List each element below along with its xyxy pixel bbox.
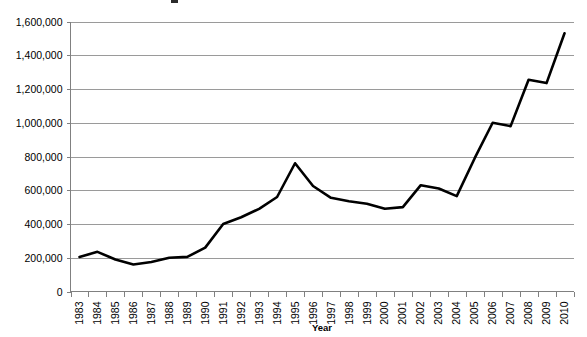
x-tick-label: 2007 <box>504 301 516 325</box>
x-axis-title: Year <box>312 322 332 333</box>
x-tick-label: 1987 <box>145 301 157 325</box>
x-tick-label: 2005 <box>468 301 480 325</box>
chart-canvas: 1,600,0001,400,0001,200,0001,000,000800,… <box>0 0 587 337</box>
x-tick-label: 1986 <box>127 301 139 325</box>
y-tick-label: 0 <box>57 286 63 298</box>
x-tick-label: 1999 <box>361 301 373 325</box>
x-tick-label: 1993 <box>253 301 265 325</box>
x-tick-label: 2004 <box>450 301 462 325</box>
x-tick-label: 1988 <box>163 301 175 325</box>
x-tick-label: 2006 <box>486 301 498 325</box>
x-tick-label: 1985 <box>109 301 121 325</box>
gridlines <box>71 23 574 259</box>
y-tick-label: 1,600,000 <box>16 16 63 28</box>
y-tick-label: 400,000 <box>25 218 63 230</box>
x-tick-label: 1994 <box>271 301 283 325</box>
x-tick-label: 2010 <box>558 301 570 325</box>
x-tick-label: 2002 <box>414 301 426 325</box>
x-tick-label: 2003 <box>432 301 444 325</box>
y-tick-label: 600,000 <box>25 184 63 196</box>
x-tick-label: 2009 <box>540 301 552 325</box>
y-tick-label: 800,000 <box>25 151 63 163</box>
x-tick-marks <box>72 292 575 297</box>
y-tick-label: 1,000,000 <box>16 117 63 129</box>
y-tick-label: 1,200,000 <box>16 83 63 95</box>
x-tick-label: 1990 <box>199 301 211 325</box>
x-tick-label: 2001 <box>396 301 408 325</box>
data-series-line <box>79 33 564 264</box>
x-tick-label: 1991 <box>217 301 229 325</box>
x-tick-label: 1998 <box>343 301 355 325</box>
y-tick-label: 1,400,000 <box>16 49 63 61</box>
x-tick-label: 1992 <box>235 301 247 325</box>
x-tick-label: 2008 <box>522 301 534 325</box>
x-tick-label: 1995 <box>289 301 301 325</box>
x-tick-label: 1989 <box>181 301 193 325</box>
x-tick-label: 1983 <box>73 301 85 325</box>
x-tick-label: 1984 <box>91 301 103 325</box>
y-axis-tick-labels: 1,600,0001,400,0001,200,0001,000,000800,… <box>16 16 63 298</box>
x-tick-label: 2000 <box>378 301 390 325</box>
y-tick-label: 200,000 <box>25 252 63 264</box>
line-chart: 1,600,0001,400,0001,200,0001,000,000800,… <box>0 0 587 337</box>
